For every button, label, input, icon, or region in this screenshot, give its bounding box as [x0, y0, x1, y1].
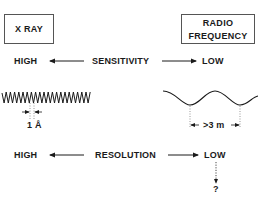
xray-wave — [2, 92, 90, 103]
radio-wave — [163, 91, 258, 105]
diagram-graphics — [0, 0, 260, 198]
